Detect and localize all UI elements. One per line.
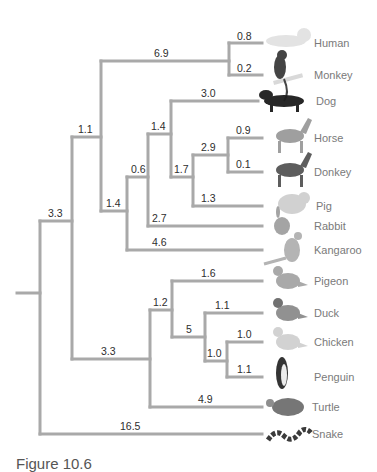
branch-length-label: 1.3 [201,192,216,204]
branch-length-label: 1.7 [174,163,189,175]
taxon-label-snake: Snake [312,428,343,440]
branch-length-label: 0.8 [237,30,252,42]
penguin-icon [276,357,288,389]
branch-length-label: 1.1 [215,299,230,311]
dog-icon [259,90,304,112]
branch-length-label: 4.9 [198,393,213,405]
kangaroo-icon [264,232,302,264]
taxon-label-pigeon: Pigeon [314,275,348,287]
taxon-label-monkey: Monkey [314,69,353,81]
taxon-label-chicken: Chicken [314,336,354,348]
branch-length-label: 1.4 [151,120,166,132]
branch-length-label: 3.3 [101,345,116,357]
branch-length-label: 6.9 [154,47,169,59]
taxon-label-human: Human [314,37,349,49]
monkey-icon [273,50,303,101]
branch-length-label: 1.4 [106,197,121,209]
branch-length-label: 1.1 [237,363,252,375]
taxon-label-penguin: Penguin [314,371,354,383]
branch-length-label: 1.6 [201,267,216,279]
branch-length-label: 16.5 [120,420,141,432]
duck-icon [273,298,308,321]
branch-length-label: 3.3 [48,207,63,219]
branch-length-label: 4.6 [152,236,167,248]
pigeon-icon [273,266,308,289]
branch-length-label: 1.2 [153,296,168,308]
taxon-label-rabbit: Rabbit [314,220,346,232]
human-icon [266,28,311,47]
branch-length-label: 1.0 [207,347,222,359]
branch-length-label: 0.2 [237,62,252,74]
taxon-label-turtle: Turtle [312,401,340,413]
donkey-icon [276,152,312,187]
animal-illustrations [259,28,312,440]
taxon-labels: HumanMonkeyDogHorseDonkeyPigRabbitKangar… [312,37,362,440]
snake-icon [268,429,312,440]
taxon-label-pig: Pig [316,200,332,212]
branch-length-label: 1.0 [237,328,252,340]
chicken-icon [273,327,308,350]
branch-length-label: 2.9 [201,141,216,153]
turtle-icon [266,398,304,416]
branch-length-label: 0.9 [236,124,251,136]
branch-length-label: 5 [186,323,192,335]
pig-icon [278,192,310,214]
taxon-label-duck: Duck [314,307,340,319]
taxon-label-horse: Horse [314,132,343,144]
horse-icon [276,118,312,153]
branch-length-label: 3.0 [201,87,216,99]
taxon-label-dog: Dog [316,95,336,107]
tree-branches [17,43,262,434]
taxon-label-donkey: Donkey [314,166,352,178]
branch-length-label: 2.7 [152,212,167,224]
branch-length-label: 1.1 [78,123,93,135]
taxon-label-kangaroo: Kangaroo [314,244,362,256]
branch-length-label: 0.6 [131,163,146,175]
figure-caption: Figure 10.6 [16,455,92,472]
branch-length-label: 0.1 [236,158,251,170]
